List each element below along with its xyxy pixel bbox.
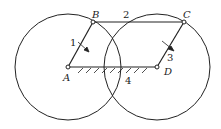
joint-b [91, 20, 95, 24]
label-link-3: 3 [167, 52, 173, 63]
joint-d [155, 65, 159, 69]
label-b: B [91, 9, 99, 20]
label-link-1: 1 [70, 37, 76, 48]
label-a: A [62, 72, 70, 83]
label-link-2: 2 [123, 9, 129, 20]
linkage-diagram: A B C D 1 2 3 4 [0, 0, 221, 129]
joint-c [182, 20, 186, 24]
joint-a [66, 65, 70, 69]
label-c: C [183, 9, 191, 20]
label-link-4: 4 [125, 75, 131, 86]
ground-hatching [78, 68, 147, 73]
label-d: D [163, 66, 172, 77]
